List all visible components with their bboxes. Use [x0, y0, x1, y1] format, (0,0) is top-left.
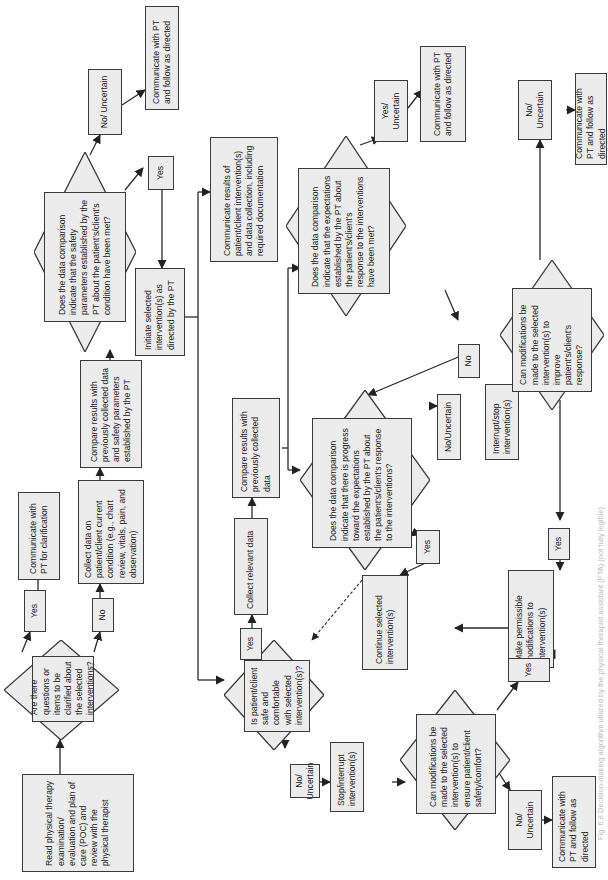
communicate-clarification-box: Communicate with PT for clarification	[18, 492, 60, 580]
clarify-decision: Are there questions or items to be clari…	[4, 640, 119, 740]
yes-modify-safety-label: Yes	[508, 658, 550, 682]
initiate-box: Initiate selected intervention(s) as dir…	[135, 268, 185, 356]
collect-current-box: Collect data on patient/client current c…	[78, 480, 144, 584]
continue-box: Continue selected intervention(s)	[362, 575, 408, 670]
yes-progress-label: Yes	[416, 530, 440, 564]
flowchart-canvas: Read physical therapy examination/ evalu…	[0, 0, 608, 880]
yes-safety-label: Yes	[148, 156, 174, 190]
yes-safe-label: Yes	[240, 628, 262, 660]
no-uncertain-modify-safety-label: No/ Uncertain	[508, 790, 542, 850]
safety-question: Does the data comparison indicate that t…	[57, 199, 113, 315]
expectations-met-decision: Does the data comparison indicate that t…	[286, 136, 406, 316]
modify-safety-decision: Can modifications be made to the selecte…	[400, 690, 510, 830]
modify-improve-decision: Can modifications be made to the selecte…	[500, 260, 604, 410]
progress-decision: Does the data comparison indicate that t…	[300, 390, 430, 570]
clarify-question: Are there questions or items to be clari…	[29, 661, 96, 715]
no-uncertain-safety-label: No/ Uncertain	[88, 69, 122, 135]
yes-improve-label: Yes	[548, 528, 570, 560]
read-poc-box: Read physical therapy examination/ evalu…	[22, 774, 134, 872]
communicate-follow-box-3: Communicate with PT and follow as direct…	[575, 73, 607, 165]
figure-caption: Fig. 6.8 Decision-making algorithm utili…	[596, 507, 605, 840]
modify-improve-question: Can modifications be made to the selecte…	[518, 295, 585, 385]
compare-safety-box: Compare results with previously collecte…	[80, 360, 142, 468]
no-clarify-label: No	[92, 598, 114, 632]
yes-uncertain-met-label: Yes/ Uncertain	[374, 80, 408, 142]
safe-comfortable-decision: Is patient/client safe and comfortable w…	[224, 640, 324, 750]
make-modifications-box: Make permissible modifications to interv…	[508, 570, 554, 668]
communicate-follow-box-1: Communicate with PT and follow as direct…	[145, 6, 179, 110]
no-uncertain-improve-label: No/ Uncertain	[518, 80, 552, 140]
expectations-met-question: Does the data comparison indicate that t…	[310, 175, 377, 287]
read-poc-text: Read physical therapy examination/ evalu…	[44, 780, 111, 866]
safe-comfortable-question: Is patient/client safe and comfortable w…	[249, 666, 305, 725]
safety-decision: Does the data comparison indicate that t…	[34, 152, 136, 352]
yes-clarify-label: Yes	[24, 590, 46, 632]
modify-safety-question: Can modifications be made to the selecte…	[428, 721, 484, 807]
collect-relevant-box: Collect relevant data	[234, 518, 268, 615]
stop-interrupt-box: Stop/interrupt intervention(s)	[330, 742, 364, 812]
communicate-follow-box-2: Communicate with PT and follow as direct…	[420, 46, 466, 142]
compare-previous-box: Compare results with previously collecte…	[232, 398, 280, 498]
progress-question: Does the data comparison indicate that t…	[328, 425, 395, 541]
communicate-follow-box-4: Communicate with PT and follow as direct…	[552, 776, 596, 868]
no-met-label: No	[458, 344, 480, 378]
no-uncertain-progress-label: No/Uncertain	[437, 394, 461, 460]
communicate-results-box: Communicate results of patient/client in…	[210, 137, 278, 262]
no-uncertain-safe-label: No/ Uncertain	[290, 764, 320, 798]
